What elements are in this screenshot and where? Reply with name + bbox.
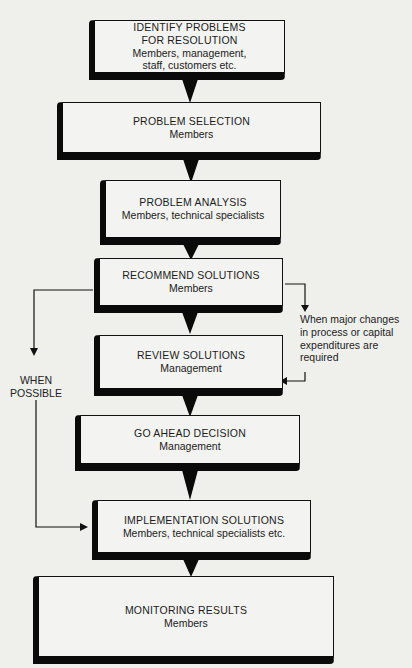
step-participants-line2: staff, customers etc. (143, 59, 237, 72)
note-line: POSSIBLE (8, 387, 64, 400)
step-participants: Members (164, 617, 208, 630)
arrow-right-icon (80, 523, 88, 531)
arrow-down-icon (301, 305, 309, 312)
step-identify-problems: IDENTIFY PROBLEMS FOR RESOLUTION Members… (89, 20, 285, 80)
flow-arrow-icon (182, 312, 198, 334)
step-title: IMPLEMENTATION SOLUTIONS (124, 514, 284, 527)
step-recommend-solutions: RECOMMEND SOLUTIONS Members (94, 258, 283, 313)
step-title: GO AHEAD DECISION (134, 427, 246, 440)
flow-arrow-icon (182, 395, 198, 417)
note-line: When major changes (300, 313, 399, 326)
note-major-changes: When major changes in process or capital… (300, 313, 399, 364)
step-implementation-solutions: IMPLEMENTATION SOLUTIONS Members, techni… (92, 500, 311, 560)
step-problem-selection: PROBLEM SELECTION Members (57, 102, 321, 160)
step-participants: Management (160, 362, 221, 375)
step-go-ahead-decision: GO AHEAD DECISION Management (75, 415, 300, 471)
flow-arrow-icon (182, 470, 198, 500)
note-line: in process or capital (300, 326, 399, 339)
step-participants: Members (170, 128, 214, 141)
step-title: PROBLEM ANALYSIS (139, 196, 246, 209)
step-problem-analysis: PROBLEM ANALYSIS Members, technical spec… (100, 180, 281, 245)
arrow-down-icon (30, 348, 38, 356)
step-participants: Members, management, (133, 47, 247, 60)
note-line: WHEN (8, 374, 64, 387)
note-line: required (300, 351, 399, 364)
flow-arrow-icon (182, 79, 198, 103)
step-participants: Management (159, 440, 220, 453)
note-when-possible: WHEN POSSIBLE (8, 374, 64, 400)
step-participants: Members (169, 282, 213, 295)
step-participants: Members, technical specialists (122, 209, 264, 222)
step-participants: Members, technical specialists etc. (123, 527, 285, 540)
step-title: MONITORING RESULTS (125, 604, 247, 617)
step-title-line2: FOR RESOLUTION (141, 34, 237, 47)
step-title: REVIEW SOLUTIONS (137, 349, 245, 362)
step-monitoring-results: MONITORING RESULTS Members (33, 576, 334, 664)
flow-arrow-icon (183, 559, 199, 577)
step-title: RECOMMEND SOLUTIONS (122, 269, 259, 282)
step-title: IDENTIFY PROBLEMS (133, 21, 245, 34)
note-line: expenditures are (300, 339, 399, 352)
step-review-solutions: REVIEW SOLUTIONS Management (94, 335, 283, 396)
step-title: PROBLEM SELECTION (133, 115, 250, 128)
